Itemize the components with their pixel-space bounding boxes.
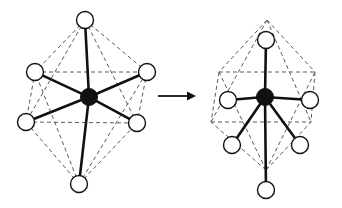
ligand-atom-axial-top bbox=[77, 12, 94, 29]
bond-axial-bottom bbox=[265, 104, 266, 183]
cage-edge bbox=[85, 20, 147, 72]
ligand-atom-equatorial-lower-right bbox=[292, 137, 309, 154]
molecular-diagram bbox=[0, 0, 342, 208]
right-center-atom bbox=[257, 89, 274, 106]
bond-equatorial-lower-left bbox=[236, 103, 261, 139]
right-ligand-atoms bbox=[220, 32, 319, 199]
bond-equatorial-lower-left bbox=[33, 100, 83, 120]
cage-edge bbox=[219, 72, 266, 170]
ligand-atom-equatorial-lower-left bbox=[18, 114, 35, 131]
arrow-head-icon bbox=[187, 92, 196, 101]
ligand-atom-equatorial-upper-right bbox=[139, 64, 156, 81]
cage-edge bbox=[79, 123, 137, 184]
right-bonds bbox=[235, 47, 303, 183]
cage-edge bbox=[26, 122, 137, 123]
central-metal-atom bbox=[81, 89, 98, 106]
bond-equatorial-upper-left bbox=[235, 98, 258, 100]
bond-equatorial-upper-right bbox=[272, 97, 303, 99]
cage-edge bbox=[267, 20, 315, 72]
bond-axial-bottom bbox=[80, 104, 88, 177]
bond-axial-top bbox=[85, 27, 88, 90]
ligand-atom-axial-bottom bbox=[71, 176, 88, 193]
bond-equatorial-lower-right bbox=[95, 100, 131, 119]
bond-equatorial-upper-left bbox=[41, 75, 82, 94]
bond-axial-top bbox=[265, 47, 266, 90]
central-metal-atom bbox=[257, 89, 274, 106]
ligand-atom-axial-bottom bbox=[258, 182, 275, 199]
ligand-atom-axial-top bbox=[258, 32, 275, 49]
ligand-atom-equatorial-upper-left bbox=[27, 64, 44, 81]
reaction-arrow bbox=[158, 92, 196, 101]
ligand-atom-equatorial-lower-right bbox=[129, 115, 146, 132]
bond-equatorial-upper-right bbox=[95, 75, 140, 94]
ligand-atom-equatorial-lower-left bbox=[224, 137, 241, 154]
cage-edge bbox=[26, 122, 79, 184]
ligand-atom-equatorial-upper-left bbox=[220, 92, 237, 109]
left-center-atom bbox=[81, 89, 98, 106]
figure-canvas bbox=[0, 0, 342, 208]
ligand-atom-equatorial-upper-right bbox=[302, 92, 319, 109]
cage-edge bbox=[266, 72, 315, 170]
bond-equatorial-lower-right bbox=[269, 103, 296, 140]
